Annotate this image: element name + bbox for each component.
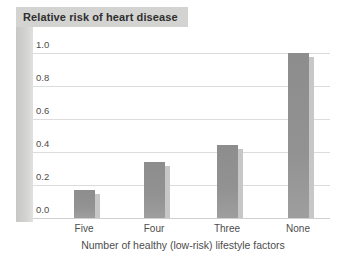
chart-title: Relative risk of heart disease: [16, 11, 178, 23]
y-tick-label: 0.8: [36, 73, 49, 83]
y-tick-label: 0.4: [36, 139, 49, 149]
chart-canvas: 1.00.80.60.40.20.0FiveFourThreeNone Rela…: [0, 0, 340, 265]
y-tick-label: 0.0: [36, 205, 49, 215]
x-axis-line: [33, 218, 330, 219]
bar-none: [288, 53, 309, 218]
grid-line: [33, 185, 330, 186]
grid-line: [33, 53, 330, 54]
grid-line: [33, 119, 330, 120]
x-tick-label: None: [268, 223, 328, 235]
plot-area: 1.00.80.60.40.20.0FiveFourThreeNone: [0, 0, 340, 265]
grid-line: [33, 152, 330, 153]
bar-three: [217, 145, 238, 218]
x-tick-label: Five: [54, 223, 114, 235]
grid-line: [33, 86, 330, 87]
chart-title-box: Relative risk of heart disease: [16, 7, 188, 27]
x-axis-title: Number of healthy (low-risk) lifestyle f…: [33, 239, 333, 251]
bar-four: [144, 162, 165, 218]
y-tick-label: 0.6: [36, 106, 49, 116]
y-tick-label: 0.2: [36, 172, 49, 182]
x-tick-label: Four: [124, 223, 184, 235]
y-tick-label: 1.0: [36, 40, 49, 50]
bar-five: [74, 190, 95, 218]
x-tick-label: Three: [197, 223, 257, 235]
